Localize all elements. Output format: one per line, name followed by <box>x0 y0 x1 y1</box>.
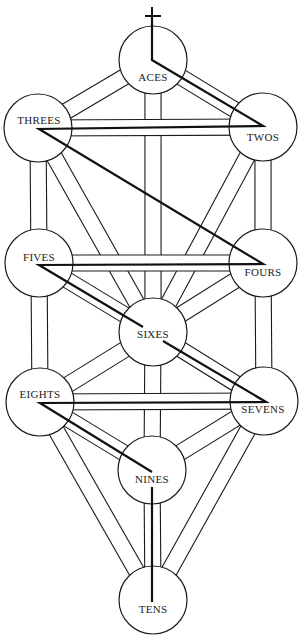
node-circle <box>5 229 73 297</box>
node-sixes: SIXES <box>119 298 187 366</box>
node-label: TWOS <box>247 131 279 143</box>
node-label: TENS <box>139 603 168 615</box>
node-label: THREES <box>17 114 60 126</box>
node-label: EIGHTS <box>20 388 61 400</box>
node-label: SEVENS <box>241 403 284 415</box>
node-label: SIXES <box>137 328 169 340</box>
node-label: NINES <box>135 473 169 485</box>
node-fives: FIVES <box>5 229 73 297</box>
node-label: ACES <box>138 71 167 83</box>
node-label: FIVES <box>23 251 55 263</box>
node-label: FOURS <box>245 266 282 278</box>
tree-of-life-diagram: ACESTHREESTWOSFIVESFOURSSIXESEIGHTSSEVEN… <box>0 0 304 639</box>
